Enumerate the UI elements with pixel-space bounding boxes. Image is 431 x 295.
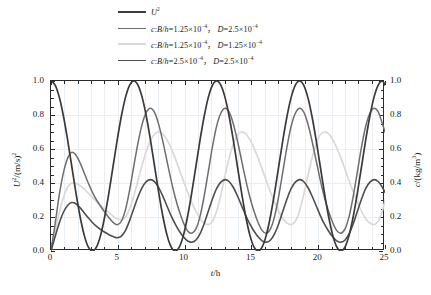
y-tick-label-left: 0.6 bbox=[33, 143, 44, 153]
legend-line-swatch bbox=[118, 60, 146, 61]
y-axis-title-right: c/(kg/m3) bbox=[412, 125, 422, 215]
tick-mark bbox=[385, 81, 386, 85]
legend-item-1[interactable]: c:B/h=1.25×10−4， D=2.5×10−4 bbox=[118, 20, 368, 36]
series-line-0 bbox=[51, 81, 385, 251]
y-axis-title-left: U2/(m/s)2 bbox=[12, 125, 22, 215]
tick-mark bbox=[385, 245, 386, 249]
y-tick-label-right: 1.0 bbox=[390, 75, 401, 85]
legend-item-2[interactable]: c:B/h=1.25×10−4， D=1.25×10−4 bbox=[118, 36, 368, 52]
legend-line-swatch bbox=[118, 11, 146, 13]
chart-figure: U2c:B/h=1.25×10−4， D=2.5×10−4c:B/h=1.25×… bbox=[0, 0, 431, 295]
y-axis-right-tick-labels: 0.00.20.40.60.81.0 bbox=[390, 80, 430, 250]
y-tick-label-left: 1.0 bbox=[33, 75, 44, 85]
x-tick-label: 5 bbox=[115, 252, 120, 262]
legend-label: U2 bbox=[151, 8, 160, 17]
legend-item-3[interactable]: c:B/h=2.5×10−4， D=2.5×10−4 bbox=[118, 52, 368, 68]
legend-line-swatch bbox=[118, 28, 146, 29]
x-tick-label: 15 bbox=[246, 252, 255, 262]
y-tick-label-right: 0.8 bbox=[390, 109, 401, 119]
y-tick-label-left: 0.2 bbox=[33, 211, 44, 221]
y-tick-label-right: 0.4 bbox=[390, 177, 401, 187]
y-tick-label-right: 0.2 bbox=[390, 211, 401, 221]
plot-area bbox=[50, 80, 384, 250]
x-tick-label: 25 bbox=[380, 252, 389, 262]
x-tick-label: 20 bbox=[313, 252, 322, 262]
y-tick-label-right: 0.0 bbox=[390, 245, 401, 255]
x-tick-label: 10 bbox=[179, 252, 188, 262]
legend-label: c:B/h=1.25×10−4， D=2.5×10−4 bbox=[151, 22, 258, 34]
data-curves bbox=[51, 81, 385, 251]
y-tick-label-left: 0.4 bbox=[33, 177, 44, 187]
chart-legend: U2c:B/h=1.25×10−4， D=2.5×10−4c:B/h=1.25×… bbox=[118, 4, 368, 68]
y-tick-label-left: 0.0 bbox=[33, 245, 44, 255]
y-tick-label-right: 0.6 bbox=[390, 143, 401, 153]
x-axis-tick-labels: 0510152025 bbox=[50, 252, 384, 266]
legend-label: c:B/h=2.5×10−4， D=2.5×10−4 bbox=[151, 54, 254, 66]
legend-label: c:B/h=1.25×10−4， D=1.25×10−4 bbox=[151, 38, 262, 50]
x-axis-title: t/h bbox=[0, 268, 431, 278]
y-tick-label-left: 0.8 bbox=[33, 109, 44, 119]
legend-line-swatch bbox=[118, 43, 146, 45]
x-tick-label: 0 bbox=[48, 252, 53, 262]
legend-item-0[interactable]: U2 bbox=[118, 4, 368, 20]
